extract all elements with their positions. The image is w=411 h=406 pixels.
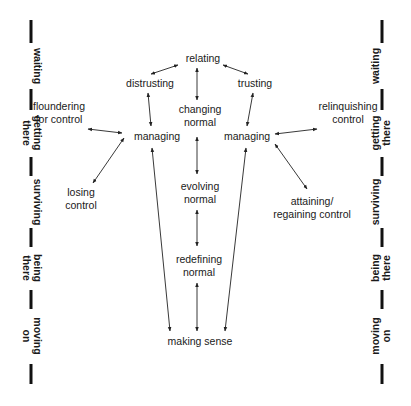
node-redefining-normal: redefining — [176, 253, 222, 265]
stage-label-being-there-2: there — [380, 255, 392, 281]
edge-attaining-managing-right — [275, 144, 307, 189]
process-diagram: waiting getting there surviving being th… — [0, 0, 411, 406]
node-relinquishing-2: control — [332, 113, 364, 125]
edge-managing-left-making-sense — [152, 148, 170, 331]
node-changing-normal-2: normal — [184, 116, 216, 128]
node-relinquishing: relinquishing — [319, 100, 378, 112]
stage-bar-right: waiting getting there surviving being th… — [369, 20, 392, 384]
stage-label-getting-there-2: there — [380, 120, 392, 146]
stage-bar-left: waiting getting there surviving being th… — [21, 20, 44, 384]
node-attaining: attaining/ — [291, 195, 334, 207]
edge-losing-control-managing-left — [93, 138, 124, 183]
stage-label-surviving: surviving — [32, 179, 44, 226]
edge-floundering-managing-left — [88, 129, 122, 133]
stage-label-waiting: waiting — [32, 47, 44, 84]
stage-label-moving-on-2: on — [21, 330, 33, 343]
node-losing-control-2: control — [65, 199, 97, 211]
node-evolving-normal: evolving — [181, 180, 220, 192]
node-managing-left: managing — [134, 130, 180, 142]
stage-label-surviving: surviving — [369, 179, 381, 226]
edge-trusting-managing-right — [247, 93, 253, 126]
node-attaining-2: regaining control — [273, 208, 351, 220]
node-changing-normal: changing — [179, 103, 222, 115]
node-redefining-normal-2: normal — [183, 266, 215, 278]
node-making-sense: making sense — [168, 335, 233, 347]
edge-distrusting-managing-left — [148, 93, 151, 126]
stage-label-waiting: waiting — [369, 48, 381, 85]
node-trusting: trusting — [238, 77, 273, 89]
node-losing-control: losing — [67, 186, 95, 198]
stage-label-moving-on-2: on — [380, 330, 392, 343]
node-relating: relating — [186, 52, 221, 64]
node-distrusting: distrusting — [126, 77, 174, 89]
edge-relinquishing-managing-right — [275, 129, 317, 134]
edge-managing-right-making-sense — [225, 148, 246, 331]
node-managing-right: managing — [224, 130, 270, 142]
stage-label-getting-there-2: there — [21, 120, 33, 146]
node-floundering-2: for control — [36, 113, 83, 125]
nodes: relating distrusting trusting changing n… — [33, 52, 378, 347]
stage-label-being-there-2: there — [21, 255, 33, 281]
edge-relating-trusting — [223, 65, 248, 74]
node-evolving-normal-2: normal — [184, 193, 216, 205]
edge-relating-distrusting — [151, 65, 178, 74]
node-floundering: floundering — [33, 100, 85, 112]
